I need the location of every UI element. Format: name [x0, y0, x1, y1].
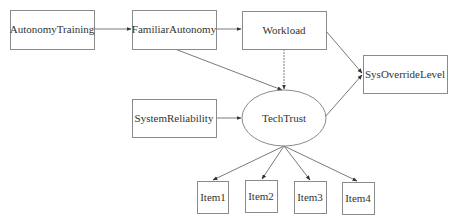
node-label: SysOverrideLevel — [365, 68, 445, 80]
node-label: Workload — [262, 24, 306, 36]
node-item1: Item1 — [198, 182, 229, 214]
node-item2: Item2 — [246, 181, 278, 213]
node-label: AutonomyTraining — [10, 23, 95, 35]
node-label: Item4 — [345, 192, 371, 204]
node-label: Item1 — [200, 191, 226, 203]
node-familiarautonomy: FamiliarAutonomy — [132, 11, 217, 50]
node-autonomytraining: AutonomyTraining — [10, 11, 95, 50]
node-workload: Workload — [243, 12, 327, 50]
node-label: Item3 — [297, 191, 323, 203]
edge-familiarautonomy-techtrust — [175, 49, 282, 90]
path-diagram: AutonomyTraining FamiliarAutonomy Worklo… — [0, 0, 456, 219]
node-systemreliability: SystemReliability — [133, 100, 217, 138]
edge-techtrust-item1 — [213, 146, 284, 180]
node-label: TechTrust — [262, 112, 306, 124]
node-label: SystemReliability — [135, 112, 214, 124]
node-label: FamiliarAutonomy — [132, 23, 217, 35]
edge-workload-sysoverridelevel — [326, 31, 362, 73]
node-item3: Item3 — [295, 182, 327, 214]
edge-techtrust-item3 — [284, 146, 310, 180]
node-item4: Item4 — [343, 183, 375, 215]
node-techtrust: TechTrust — [242, 90, 326, 146]
node-label: Item2 — [248, 190, 274, 202]
edge-techtrust-item4 — [284, 146, 357, 181]
node-sysoverridelevel: SysOverrideLevel — [364, 56, 448, 94]
edge-techtrust-sysoverridelevel — [325, 75, 362, 117]
